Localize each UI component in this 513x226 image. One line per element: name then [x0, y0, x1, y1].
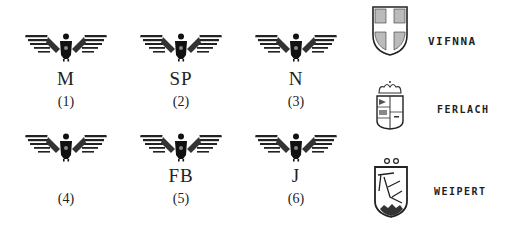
shield-branch-icon [372, 157, 410, 219]
eagle-icon [139, 33, 223, 63]
city-label-weipert: WEIPERT [434, 186, 487, 197]
mark-letter: N [246, 69, 346, 89]
shield-cross-icon [371, 5, 409, 57]
eagle-icon [139, 133, 223, 163]
mark-number: (4) [16, 191, 116, 207]
mark-letter: M [16, 69, 116, 89]
mark-letter: SP [131, 69, 231, 89]
city-label-vienna: VIFNNA [428, 35, 477, 48]
eagle-mark-2: SP (2) [131, 33, 231, 123]
mark-letter: J [246, 166, 346, 186]
crowned-shield-icon [374, 79, 406, 131]
eagle-icon [24, 33, 108, 63]
eagle-mark-3: N (3) [246, 33, 346, 123]
eagle-mark-6: J (6) [246, 133, 346, 223]
eagle-mark-4: (4) [16, 133, 116, 223]
eagle-icon [254, 133, 338, 163]
eagle-icon [254, 33, 338, 63]
mark-number: (3) [246, 94, 346, 110]
mark-number: (1) [16, 94, 116, 110]
eagle-mark-1: M (1) [16, 33, 116, 123]
mark-letter: FB [131, 166, 231, 186]
mark-number: (2) [131, 94, 231, 110]
eagle-mark-5: FB (5) [131, 133, 231, 223]
city-label-ferlach: FERLACH [437, 104, 490, 115]
eagle-icon [24, 133, 108, 163]
mark-number: (5) [131, 191, 231, 207]
mark-number: (6) [246, 191, 346, 207]
